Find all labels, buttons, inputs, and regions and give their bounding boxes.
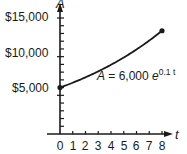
curve-end-point (159, 28, 164, 33)
y-tick-label-15000: $15,000 (5, 10, 49, 24)
x-tick-label-0: 0 (57, 139, 64, 153)
curve-start-point (57, 85, 62, 90)
equation-label: A = 6,000 e0.1 t (96, 67, 176, 83)
x-axis-name: t (175, 127, 180, 142)
x-tick-label-8: 8 (159, 139, 166, 153)
exponential-growth-chart: A t $15,000 $10,000 $5,000 0 1 2 3 4 5 6… (0, 0, 187, 154)
y-axis-name: A (55, 0, 65, 11)
x-tick-label-1: 1 (70, 139, 77, 153)
x-tick-label-3: 3 (95, 139, 102, 153)
equation-variable: A (96, 69, 105, 83)
equation-exponent: 0.1 t (159, 67, 176, 77)
x-tick-label-5: 5 (121, 139, 128, 153)
equation-coefficient: = 6,000 (105, 69, 152, 83)
x-tick-label-6: 6 (133, 139, 140, 153)
y-tick-label-10000: $10,000 (5, 46, 49, 60)
y-tick-label-5000: $5,000 (12, 81, 49, 95)
x-tick-label-7: 7 (146, 139, 153, 153)
x-axis-arrow-icon (164, 131, 173, 137)
x-tick-label-2: 2 (82, 139, 89, 153)
x-tick-label-4: 4 (108, 139, 115, 153)
